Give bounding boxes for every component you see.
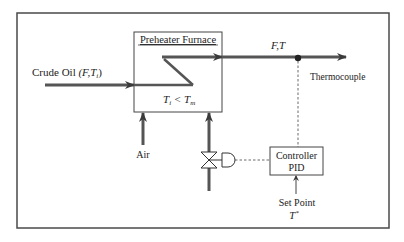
outlet-label: F,T [270, 39, 286, 51]
controller-type: PID [288, 162, 304, 173]
control-valve-icon [201, 152, 235, 168]
furnace-internal-flow [134, 57, 222, 85]
air-label: Air [136, 149, 150, 160]
process-control-diagram: Preheater Furnace Ti < Tm Crude Oil (F,T… [0, 0, 404, 242]
thermocouple: Thermocouple [295, 55, 366, 147]
furnace-condition: Ti < Tm [163, 93, 195, 107]
set-point-symbol: T* [289, 209, 299, 221]
crude-oil-inlet: Crude Oil (F,Ti) [32, 66, 134, 85]
outlet-flow: F,T [222, 39, 346, 57]
controller-label: Controller [276, 150, 318, 161]
valve-actuator-icon [222, 153, 235, 167]
thermocouple-dot [295, 55, 301, 61]
set-point: Set Point T* [279, 176, 316, 221]
fuel-line [201, 113, 270, 191]
furnace-title: Preheater Furnace [140, 34, 216, 45]
thermocouple-label: Thermocouple [310, 72, 365, 82]
set-point-label: Set Point [279, 197, 316, 208]
pid-controller: Controller PID [270, 147, 323, 175]
inlet-label: Crude Oil (F,Ti) [32, 66, 102, 80]
air-inlet: Air [136, 113, 150, 160]
